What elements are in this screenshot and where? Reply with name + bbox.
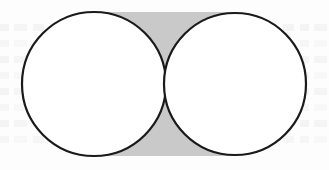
geometry-figure (0, 0, 329, 170)
right-circle (164, 13, 306, 155)
figure-canvas (0, 0, 329, 170)
left-circle (22, 12, 166, 156)
